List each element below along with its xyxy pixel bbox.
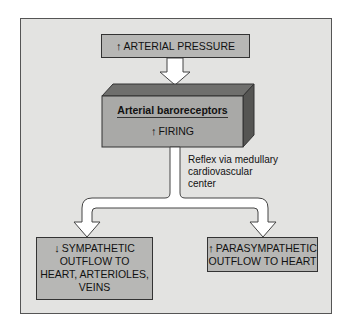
arterial-pressure-label: ARTERIAL PRESSURE xyxy=(124,40,235,52)
down-arrow-icon: ↓ xyxy=(54,242,60,254)
parasympathetic-outflow-box: ↑PARASYMPATHETIC OUTFLOW TO HEART xyxy=(207,237,318,272)
parasympathetic-line-2: OUTFLOW TO HEART xyxy=(208,255,317,268)
baroreceptors-firing: ↑FIRING xyxy=(102,125,243,137)
sympathetic-line-2: OUTFLOW TO xyxy=(37,255,152,268)
box-top-face xyxy=(102,84,254,96)
up-arrow-icon: ↑ xyxy=(208,242,214,254)
down-arrow-icon xyxy=(160,58,190,85)
firing-label: FIRING xyxy=(158,125,194,137)
reflex-line-1: Reflex via medullary xyxy=(188,154,278,166)
baroreceptors-title: Arterial baroreceptors xyxy=(102,104,243,116)
sympathetic-line-4: VEINS xyxy=(37,281,152,294)
reflex-label: Reflex via medullary cardiovascular cent… xyxy=(188,154,278,190)
up-arrow-icon: ↑ xyxy=(116,40,122,52)
sympathetic-line-3: HEART, ARTERIOLES, xyxy=(37,268,152,281)
baroreceptors-title-text: Arterial baroreceptors xyxy=(117,104,227,118)
parasympathetic-line-1: PARASYMPATHETIC xyxy=(216,242,317,254)
sympathetic-outflow-box: ↓SYMPATHETIC OUTFLOW TO HEART, ARTERIOLE… xyxy=(36,237,153,300)
arterial-pressure-box: ↑ARTERIAL PRESSURE xyxy=(101,34,250,58)
reflex-line-2: cardiovascular xyxy=(188,166,278,178)
sympathetic-line-1: SYMPATHETIC xyxy=(62,242,135,254)
reflex-line-3: center xyxy=(188,178,278,190)
up-arrow-icon: ↑ xyxy=(151,125,157,137)
